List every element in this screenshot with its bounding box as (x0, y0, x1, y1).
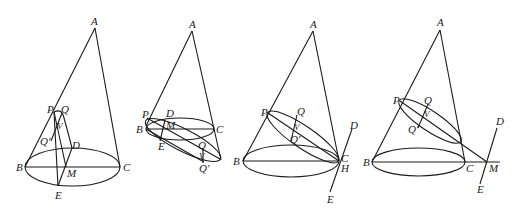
label-Q: Q (61, 103, 69, 115)
figure-2-cone (141, 31, 226, 169)
conic-sections-diagram: A P Q V Q′ D B M C E A P D B M C E Q V Q… (0, 0, 518, 210)
label-V: V (199, 151, 206, 161)
label-E: E (54, 189, 62, 201)
label-M: M (488, 162, 499, 174)
label-A: A (188, 18, 196, 30)
label-D: D (495, 115, 504, 127)
label-Q: Q (424, 94, 432, 106)
label-E: E (157, 140, 165, 152)
line-DE (480, 128, 497, 184)
label-C: C (466, 162, 474, 174)
generator-AC (192, 31, 221, 160)
label-P: P (46, 103, 54, 115)
label-B: B (16, 161, 23, 173)
label-V: V (294, 122, 301, 132)
label-Q: Q (297, 105, 305, 117)
label-E: E (476, 183, 484, 195)
label-P: P (141, 108, 149, 120)
label-Q-prime: Q′ (199, 162, 210, 174)
diameter-PC (268, 113, 339, 161)
label-P: P (260, 106, 268, 118)
label-V: V (57, 121, 64, 131)
label-D: D (71, 139, 80, 151)
label-B: B (363, 156, 370, 168)
label-V: V (424, 109, 431, 119)
diagram-canvas: A P Q V Q′ D B M C E A P D B M C E Q V Q… (0, 0, 518, 210)
label-Q-prime: Q′ (408, 123, 419, 135)
label-A: A (309, 18, 317, 30)
label-Q-prime: Q′ (40, 135, 51, 147)
label-H: H (340, 162, 350, 174)
generator-AB (25, 28, 95, 167)
label-B: B (136, 123, 143, 135)
label-A: A (436, 16, 444, 28)
label-P: P (392, 94, 400, 106)
label-B: B (233, 155, 240, 167)
figure-4-cone (372, 30, 500, 184)
label-C: C (123, 161, 131, 173)
label-Q-prime: Q′ (290, 133, 301, 145)
generator-AB (243, 31, 313, 161)
label-M: M (165, 119, 176, 131)
label-M: M (66, 167, 77, 179)
label-D: D (165, 107, 174, 119)
figure-1-labels: A P Q V Q′ D B M C E (16, 15, 131, 201)
label-A: A (90, 15, 98, 27)
label-D: D (349, 119, 358, 131)
label-E: E (326, 193, 334, 205)
figure-1-cone (25, 28, 120, 186)
label-Q: Q (198, 139, 206, 151)
label-C: C (216, 123, 224, 135)
generator-AC (95, 28, 120, 167)
